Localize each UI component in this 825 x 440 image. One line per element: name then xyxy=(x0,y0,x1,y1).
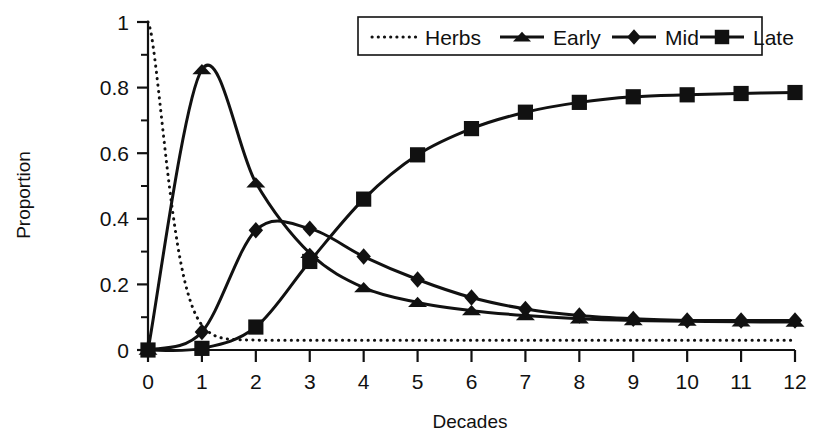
x-tick-label: 3 xyxy=(304,370,316,393)
data-marker-square xyxy=(464,121,479,136)
x-tick-label: 6 xyxy=(466,370,478,393)
legend-label-late: Late xyxy=(753,26,794,49)
y-axis-title: Proportion xyxy=(13,151,34,239)
y-tick-label: 0.4 xyxy=(100,207,130,230)
x-tick-label: 7 xyxy=(520,370,532,393)
x-tick-label: 4 xyxy=(358,370,370,393)
data-marker-square xyxy=(194,341,209,356)
y-tick-label: 1 xyxy=(117,11,129,34)
data-marker-square xyxy=(680,87,695,102)
x-tick-label: 10 xyxy=(675,370,698,393)
x-tick-label: 0 xyxy=(142,370,154,393)
data-marker-square xyxy=(410,147,425,162)
legend-label-mid: Mid xyxy=(665,26,699,49)
data-marker-square xyxy=(787,85,802,100)
x-axis-title: Decades xyxy=(433,411,508,432)
y-tick-label: 0.8 xyxy=(100,76,129,99)
x-tick-label: 2 xyxy=(250,370,262,393)
y-tick-label: 0.6 xyxy=(100,142,129,165)
data-marker-square xyxy=(572,95,587,110)
x-tick-label: 5 xyxy=(412,370,424,393)
y-tick-label: 0.2 xyxy=(100,273,129,296)
x-tick-label: 1 xyxy=(196,370,208,393)
x-tick-label: 9 xyxy=(627,370,639,393)
y-tick-label: 0 xyxy=(117,339,129,362)
x-tick-label: 12 xyxy=(783,370,806,393)
data-marker-square xyxy=(302,254,317,269)
data-marker-square xyxy=(140,342,155,357)
chart-legend[interactable]: HerbsEarlyMidLate xyxy=(358,17,794,55)
legend-label-herbs: Herbs xyxy=(425,26,481,49)
data-marker-square xyxy=(248,319,263,334)
proportion-by-decade-line-chart: 00.20.40.60.81 0123456789101112 Proporti… xyxy=(0,0,825,440)
legend-label-early: Early xyxy=(553,26,601,49)
data-marker-square xyxy=(356,192,371,207)
chart-container: 00.20.40.60.81 0123456789101112 Proporti… xyxy=(0,0,825,440)
data-marker-square xyxy=(715,30,729,44)
data-marker-square xyxy=(733,86,748,101)
data-marker-square xyxy=(518,105,533,120)
x-tick-label: 11 xyxy=(730,370,752,393)
data-marker-square xyxy=(626,89,641,104)
x-tick-label: 8 xyxy=(573,370,585,393)
